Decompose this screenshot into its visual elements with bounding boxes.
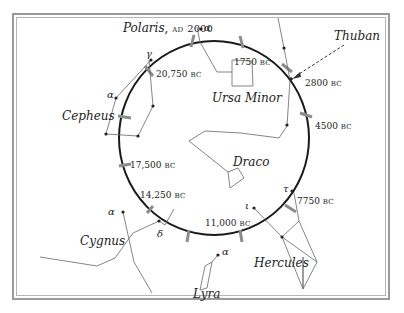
- date-11000: 11,000 BC: [205, 218, 251, 228]
- star-label-cygnus-delta: δ: [157, 228, 163, 239]
- date-1750: 1750 BC: [234, 57, 271, 67]
- star-label-cepheus-alpha: α: [107, 89, 114, 100]
- label-draco: Draco: [233, 155, 269, 169]
- label-cepheus: Cepheus: [62, 109, 115, 123]
- date-7750: 7750 BC: [297, 196, 334, 206]
- precession-diagram: [0, 0, 404, 313]
- star-label-hercules-iota: ι: [245, 200, 249, 211]
- constellation-lines: [40, 18, 317, 293]
- date-14250: 14,250 BC: [140, 190, 186, 200]
- date-ticks: [118, 35, 312, 242]
- star-label-lyra-alpha: α: [222, 246, 229, 257]
- label-hercules: Hercules: [254, 256, 309, 270]
- star-label-cepheus-gamma: γ: [146, 48, 152, 59]
- polaris-label: Polaris, AD 2000: [123, 21, 213, 35]
- polaris-name: Polaris: [123, 21, 165, 35]
- thuban-arrow: [292, 45, 344, 79]
- label-ursa-minor: Ursa Minor: [212, 91, 282, 105]
- thuban-label: Thuban: [334, 29, 380, 43]
- star-label-polaris-alpha: α: [204, 22, 211, 33]
- date-20750: 20,750 BC: [156, 69, 202, 79]
- date-17500: 17,500 BC: [130, 160, 176, 170]
- date-4500: 4500 BC: [315, 121, 352, 131]
- star-label-hercules-tau: τ: [283, 183, 289, 194]
- star-label-cygnus-alpha: α: [108, 206, 115, 217]
- polaris-era: AD: [172, 26, 183, 34]
- label-lyra: Lyra: [193, 287, 220, 301]
- date-2800: 2800 BC: [305, 78, 342, 88]
- label-cygnus: Cygnus: [80, 234, 125, 248]
